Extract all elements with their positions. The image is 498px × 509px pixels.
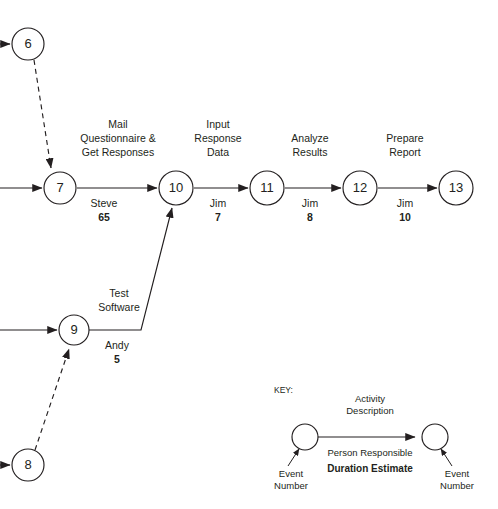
node-10-label: 10 xyxy=(169,180,183,195)
key-event-number-left-line-1: Event xyxy=(279,468,304,479)
edge-6-to-7-dashed xyxy=(34,60,51,168)
key-event-circle-left xyxy=(292,424,318,450)
activity-12-13-duration: 10 xyxy=(399,211,411,223)
key-event-circle-right xyxy=(422,424,448,450)
key-activity-desc-line-1: Activity xyxy=(355,393,385,404)
node-9-label: 9 xyxy=(70,322,77,337)
activity-9-10-desc-line-2: Software xyxy=(98,301,140,313)
activity-11-12-desc-line-2: Results xyxy=(292,146,327,158)
key-pointer-right xyxy=(441,449,452,466)
network-diagram-canvas: 6 7 8 9 10 11 12 13 Mail Questionnaire &… xyxy=(0,0,498,509)
activity-12-13-desc-line-2: Report xyxy=(389,146,421,158)
activity-7-10-person: Steve xyxy=(91,197,118,209)
node-7-label: 7 xyxy=(56,180,63,195)
key-duration-estimate: Duration Estimate xyxy=(327,463,413,474)
key-event-number-right-line-2: Number xyxy=(440,480,474,491)
key-event-number-left-line-2: Number xyxy=(274,480,308,491)
activity-12-13-person: Jim xyxy=(397,197,414,209)
activity-7-10-desc-line-3: Get Responses xyxy=(82,146,154,158)
activity-9-10-person: Andy xyxy=(105,339,130,351)
activity-10-11-desc-line-1: Input xyxy=(206,118,229,130)
activity-7-10-desc-line-2: Questionnaire & xyxy=(80,132,155,144)
activity-10-11-person: Jim xyxy=(210,197,227,209)
key-title: KEY: xyxy=(274,385,293,395)
activity-11-12-person: Jim xyxy=(302,197,319,209)
node-8-label: 8 xyxy=(24,457,31,472)
node-12-label: 12 xyxy=(353,180,367,195)
node-11-label: 11 xyxy=(260,180,274,195)
activity-9-10-duration: 5 xyxy=(114,353,120,365)
activity-10-11-duration: 7 xyxy=(215,211,221,223)
activity-12-13-desc-line-1: Prepare xyxy=(386,132,424,144)
activity-9-10-desc-line-1: Test xyxy=(109,287,128,299)
activity-7-10-desc-line-1: Mail xyxy=(108,118,127,130)
key-event-number-right-line-1: Event xyxy=(445,468,470,479)
activity-10-11-desc-line-3: Data xyxy=(207,146,229,158)
node-6-label: 6 xyxy=(24,36,31,51)
key-pointer-left xyxy=(288,449,299,466)
activity-11-12-desc-line-1: Analyze xyxy=(291,132,329,144)
key-person-responsible: Person Responsible xyxy=(327,447,412,458)
activity-10-11-desc-line-2: Response xyxy=(194,132,241,144)
node-13-label: 13 xyxy=(449,180,463,195)
key-activity-desc-line-2: Description xyxy=(346,405,394,416)
activity-11-12-duration: 8 xyxy=(307,211,313,223)
activity-7-10-duration: 65 xyxy=(98,211,110,223)
network-diagram-svg: 6 7 8 9 10 11 12 13 Mail Questionnaire &… xyxy=(0,0,498,509)
edge-8-to-9-dashed xyxy=(35,349,69,450)
